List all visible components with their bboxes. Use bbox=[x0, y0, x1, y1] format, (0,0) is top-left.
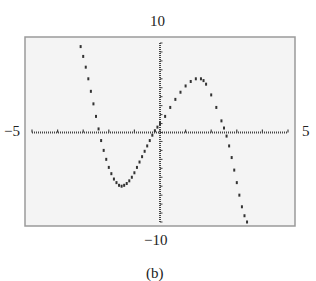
data-point bbox=[82, 55, 84, 58]
data-point bbox=[246, 221, 248, 224]
x-min-label: −5 bbox=[4, 124, 20, 139]
data-point bbox=[223, 127, 225, 130]
data-point bbox=[85, 66, 87, 69]
data-point bbox=[141, 155, 143, 158]
data-point bbox=[121, 185, 123, 188]
data-point bbox=[80, 45, 82, 48]
data-point bbox=[92, 102, 94, 105]
data-point bbox=[236, 181, 238, 184]
data-point bbox=[146, 144, 148, 147]
data-point bbox=[149, 139, 151, 142]
data-point bbox=[190, 80, 192, 83]
data-point bbox=[133, 171, 135, 174]
data-point bbox=[103, 149, 105, 152]
data-point bbox=[200, 77, 202, 80]
data-point bbox=[220, 119, 222, 122]
data-point bbox=[100, 139, 102, 142]
data-point bbox=[185, 84, 187, 87]
data-point bbox=[95, 115, 97, 118]
data-point bbox=[151, 134, 153, 137]
data-point bbox=[228, 144, 230, 147]
data-point bbox=[195, 77, 197, 80]
data-point bbox=[241, 205, 243, 208]
data-point bbox=[108, 166, 110, 169]
data-point bbox=[118, 184, 120, 187]
data-point bbox=[238, 194, 240, 197]
data-point bbox=[226, 135, 228, 138]
data-point bbox=[205, 83, 207, 86]
data-point bbox=[136, 166, 138, 169]
data-point bbox=[126, 182, 128, 185]
data-point bbox=[169, 106, 171, 109]
data-point bbox=[174, 98, 176, 101]
data-point bbox=[154, 129, 156, 132]
data-point bbox=[90, 90, 92, 93]
data-point bbox=[210, 93, 212, 96]
data-point bbox=[131, 176, 133, 179]
data-point bbox=[98, 127, 100, 130]
data-point bbox=[87, 77, 89, 80]
data-point bbox=[215, 106, 217, 109]
y-max-label: 10 bbox=[150, 14, 165, 29]
data-point bbox=[123, 184, 125, 187]
data-point bbox=[156, 126, 158, 129]
figure-caption: (b) bbox=[146, 266, 164, 281]
data-point bbox=[144, 150, 146, 153]
data-point bbox=[110, 172, 112, 175]
y-min-label: −10 bbox=[144, 233, 167, 248]
data-point bbox=[113, 178, 115, 181]
data-point bbox=[203, 79, 205, 82]
data-point bbox=[139, 161, 141, 164]
data-point bbox=[233, 169, 235, 172]
data-point bbox=[243, 214, 245, 217]
data-point bbox=[164, 115, 166, 118]
x-max-label: 5 bbox=[302, 124, 310, 139]
data-point bbox=[179, 91, 181, 94]
data-point bbox=[128, 179, 130, 182]
data-point bbox=[231, 156, 233, 159]
data-point bbox=[105, 158, 107, 161]
data-point bbox=[159, 122, 161, 125]
data-point bbox=[115, 181, 117, 184]
